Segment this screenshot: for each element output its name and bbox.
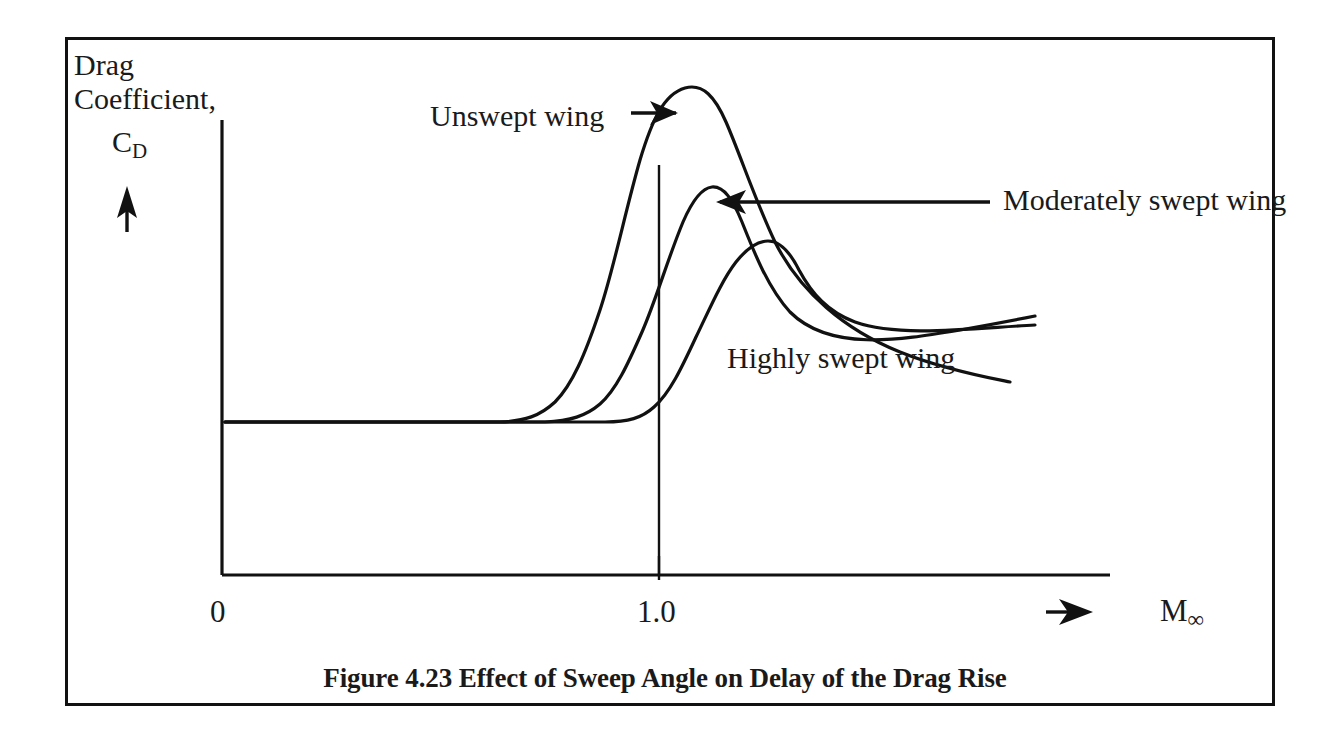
y-axis-label-line1: Drag <box>74 48 216 82</box>
y-axis-symbol: CD <box>112 125 147 163</box>
figure-caption: Figure 4.23 Effect of Sweep Angle on Del… <box>0 663 1330 693</box>
curve-moderately-swept-wing <box>225 187 1035 422</box>
curve-highly-swept-wing <box>225 241 1035 422</box>
y-axis-symbol-base: C <box>112 125 132 158</box>
x-axis-label: M∞ <box>1160 594 1204 633</box>
x-tick-label-zero: 0 <box>210 595 226 630</box>
y-axis-symbol-subscript: D <box>132 139 147 163</box>
x-axis-symbol-subscript: ∞ <box>1188 607 1204 632</box>
y-axis-label: Drag Coefficient, <box>74 48 216 115</box>
annotation-highly-swept-wing: Highly swept wing <box>727 341 955 375</box>
y-axis-label-line2: Coefficient, <box>74 82 216 116</box>
figure-root: Drag Coefficient, CD Unswept wing Modera… <box>0 0 1330 746</box>
x-axis-symbol-base: M <box>1160 593 1188 628</box>
x-tick-label-mach-one: 1.0 <box>637 595 676 630</box>
annotation-moderately-swept-wing: Moderately swept wing <box>1003 183 1286 217</box>
annotation-unswept-wing: Unswept wing <box>430 99 604 133</box>
